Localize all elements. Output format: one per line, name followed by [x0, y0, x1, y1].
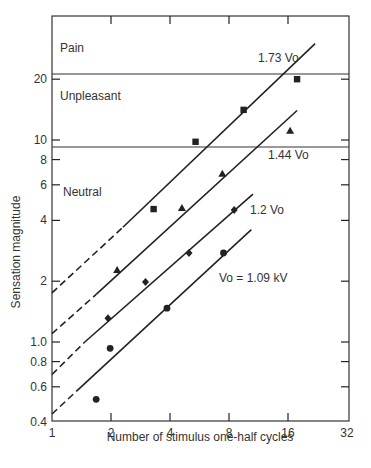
- y-tick-label: 0.8: [30, 355, 47, 369]
- x-axis-ticks: [111, 16, 288, 421]
- triangle-marker: [218, 170, 226, 177]
- square-marker: [150, 206, 156, 212]
- diamond-marker: [104, 314, 111, 322]
- fit-line-dashed: [52, 391, 76, 414]
- square-marker: [240, 107, 246, 113]
- y-axis-label: Sensation magnitude: [9, 195, 23, 308]
- diamond-marker: [142, 278, 149, 286]
- fit-line-dashed: [52, 227, 123, 293]
- line-label-vo: Vo = 1.09 kV: [219, 271, 287, 285]
- x-axis-label: Number of stimulus one-half cycles: [107, 430, 294, 444]
- y-tick-label: 0.4: [30, 415, 47, 429]
- triangle-marker: [178, 204, 186, 211]
- y-axis-tick-labels: 0.40.60.81.024681020: [30, 72, 47, 429]
- region-label-pain: Pain: [60, 41, 84, 55]
- plot-frame: [52, 16, 349, 421]
- region-label-unpleasant: Unpleasant: [60, 89, 121, 103]
- y-tick-label: 10: [34, 133, 48, 147]
- y-tick-label: 20: [34, 72, 48, 86]
- y-tick-label: 0.6: [30, 380, 47, 394]
- x-tick-label: 32: [340, 426, 354, 440]
- y-tick-label: 2: [40, 274, 47, 288]
- data-markers: [93, 76, 301, 403]
- circle-marker: [107, 345, 114, 352]
- y-tick-label: 6: [40, 178, 47, 192]
- fit-line-dashed: [52, 342, 85, 375]
- line-label-1-2: 1.2 Vo: [250, 203, 284, 217]
- line-label-1-44: 1.44 Vo: [268, 148, 309, 162]
- circle-marker: [164, 305, 171, 312]
- chart-figure: 0.40.60.81.024681020 12481632 Pain Unple…: [0, 0, 371, 468]
- y-tick-label: 4: [40, 213, 47, 227]
- y-tick-label: 8: [40, 153, 47, 167]
- square-marker: [294, 76, 300, 82]
- y-axis-ticks: [52, 79, 60, 387]
- triangle-marker: [113, 266, 121, 273]
- circle-marker: [220, 250, 227, 257]
- x-tick-label: 1: [49, 426, 56, 440]
- line-label-1-73: 1.73 Vo: [258, 51, 299, 65]
- triangle-marker: [286, 127, 294, 134]
- y-axis-ticks-right: [341, 79, 349, 387]
- y-tick-label: 1.0: [30, 335, 47, 349]
- region-label-neutral: Neutral: [63, 185, 102, 199]
- diamond-marker: [185, 249, 192, 257]
- circle-marker: [93, 396, 100, 403]
- square-marker: [192, 139, 198, 145]
- fit-line: [123, 44, 315, 228]
- fit-line-dashed: [52, 294, 96, 333]
